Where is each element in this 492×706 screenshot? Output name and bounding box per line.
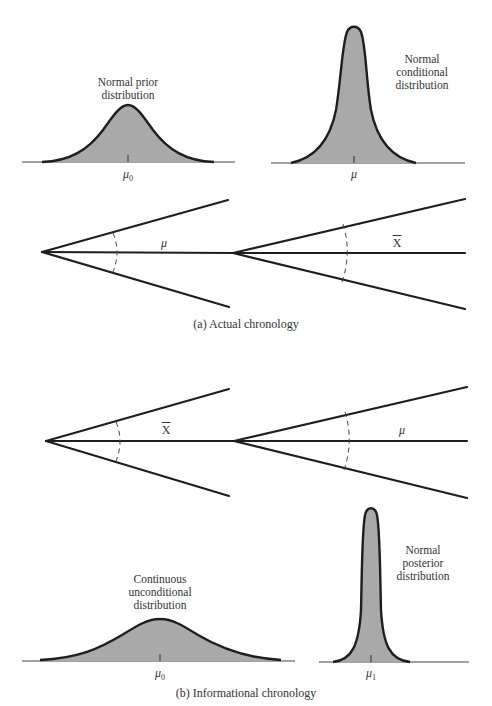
tree-b-branch-upper-1: [46, 389, 229, 441]
unconditional-label-line1: Continuous: [110, 573, 210, 586]
caption-actual-chronology: (a) Actual chronology: [0, 317, 492, 332]
posterior-label-line2: posterior: [373, 557, 473, 570]
caption-informational-chronology: (b) Informational chronology: [0, 686, 492, 701]
conditional-distribution-curve: [271, 27, 465, 163]
tree-a-first-node-label: μ: [161, 236, 167, 251]
tree-b-branch-lower-1: [46, 441, 229, 496]
posterior-distribution-label: Normal posterior distribution: [373, 544, 473, 583]
tree-b-second-node-label: μ: [399, 423, 405, 438]
conditional-mean-label: μ: [351, 167, 357, 182]
unconditional-distribution-curve: [22, 619, 295, 661]
tree-a: [42, 199, 465, 309]
unconditional-label-line3: distribution: [110, 599, 210, 612]
conditional-distribution-label: Normal conditional distribution: [372, 53, 472, 92]
unconditional-label-line2: unconditional: [110, 586, 210, 599]
posterior-label-line1: Normal: [373, 544, 473, 557]
prior-mean-label: μ0: [123, 167, 133, 183]
tree-a-branch-upper-1: [42, 200, 228, 252]
prior-distribution-label: Normal prior distribution: [78, 76, 178, 102]
tree-b-first-node-label: X: [162, 423, 171, 438]
prior-label-line2: distribution: [78, 89, 178, 102]
posterior-distribution-curve: [319, 508, 469, 662]
tree-a-second-node-label: X: [393, 236, 402, 251]
tree-b-branch-upper-2: [234, 387, 467, 441]
prior-label-line1: Normal prior: [78, 76, 178, 89]
tree-b: [46, 387, 467, 498]
posterior-mean-label: μ1: [366, 666, 376, 682]
conditional-label-line2: conditional: [372, 66, 472, 79]
tree-b-branch-lower-2: [234, 441, 467, 498]
prior-distribution-curve: [22, 105, 235, 162]
tree-a-branch-lower-2: [233, 253, 465, 309]
posterior-label-line3: distribution: [373, 570, 473, 583]
conditional-label-line3: distribution: [372, 79, 472, 92]
tree-a-branch-upper-2: [233, 199, 465, 253]
figure-canvas: [0, 0, 492, 706]
tree-a-branch-lower-1: [42, 252, 229, 307]
tree-a-branch-middle-1: [42, 252, 234, 253]
unconditional-distribution-label: Continuous unconditional distribution: [110, 573, 210, 612]
unconditional-mean-label: μ0: [155, 666, 165, 682]
conditional-label-line1: Normal: [372, 53, 472, 66]
